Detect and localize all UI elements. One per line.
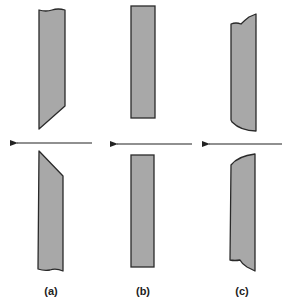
- panel-b-label: (b): [136, 285, 150, 297]
- panel-a-upper-piece: [39, 9, 65, 129]
- panel-b-upper-piece: [131, 6, 155, 118]
- panel-a: [17, 9, 92, 271]
- panel-c: [209, 14, 282, 271]
- panel-b: [117, 6, 192, 267]
- panel-c-upper-piece: [231, 14, 256, 131]
- panel-b-lower-piece: [131, 155, 154, 267]
- panel-a-lower-piece: [38, 151, 63, 271]
- panel-c-label: (c): [235, 285, 248, 297]
- cutting-diagram: [0, 0, 287, 306]
- panel-a-label: (a): [44, 285, 57, 297]
- panel-c-lower-piece: [230, 154, 255, 271]
